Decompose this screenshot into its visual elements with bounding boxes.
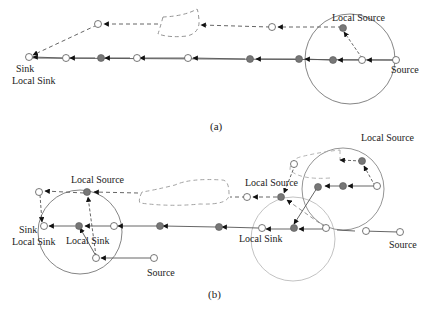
obstacle-region — [139, 180, 229, 206]
obstacle-region — [158, 9, 199, 37]
relay-node — [269, 24, 276, 31]
relay-node — [185, 55, 192, 62]
panel-a: Sink Local Sink Local Source Source (a) — [12, 9, 419, 133]
local-source-node — [340, 25, 347, 32]
source-node — [393, 57, 400, 64]
panel-b: Local Source Sink Local Sink Local Sink … — [12, 132, 417, 301]
relay-node — [93, 255, 100, 262]
local-source-node — [84, 189, 91, 196]
local-sink-mid-label: Local Sink — [239, 233, 283, 244]
local-sink-node — [76, 223, 83, 230]
local-sink-inner-label: Local Sink — [66, 235, 110, 246]
relay-node — [291, 161, 298, 168]
range-circle — [38, 190, 122, 274]
local-source-label: Local Source — [71, 174, 125, 185]
relay-node — [374, 183, 381, 190]
relay-node — [259, 225, 266, 232]
relay-node — [244, 194, 251, 201]
diagram-canvas: Sink Local Sink Local Source Source (a) — [0, 0, 436, 312]
caption-b: (b) — [208, 288, 221, 301]
relay-node — [359, 57, 366, 64]
range-circle — [305, 14, 395, 104]
source-node — [397, 229, 404, 236]
local-source-node — [359, 158, 366, 165]
local-sink-label: Local Sink — [12, 75, 56, 86]
relay-node — [363, 228, 370, 235]
relay-node — [323, 225, 330, 232]
local-source-mid-label: Local Source — [245, 177, 299, 188]
local-source-right-label: Local Source — [361, 132, 415, 143]
selected-node — [296, 56, 303, 63]
sink-label: Sink — [16, 63, 34, 74]
local-sink-node — [291, 225, 298, 232]
source-right-label: Source — [389, 239, 417, 250]
selected-node — [340, 183, 347, 190]
source-node — [151, 255, 158, 262]
relay-node — [134, 55, 141, 62]
local-source-node — [278, 194, 285, 201]
selected-node — [315, 184, 322, 191]
relay-node — [111, 223, 118, 230]
source-label: Source — [391, 64, 419, 75]
local-source-label: Local Source — [332, 12, 386, 23]
relay-node — [63, 55, 70, 62]
relay-node — [36, 189, 43, 196]
sink-label: Sink — [19, 224, 37, 235]
sink-node — [26, 54, 33, 61]
caption-a: (a) — [210, 120, 223, 133]
selected-node — [216, 224, 223, 231]
selected-node — [330, 57, 337, 64]
selected-node — [247, 56, 254, 63]
selected-node — [157, 223, 164, 230]
source-left-label: Source — [147, 267, 175, 278]
relay-node — [95, 21, 102, 28]
sink-node — [41, 223, 48, 230]
local-sink-label: Local Sink — [12, 236, 56, 247]
selected-node — [98, 55, 105, 62]
